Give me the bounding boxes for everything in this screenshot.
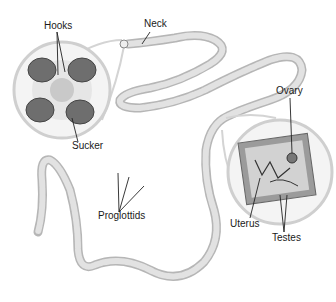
sucker-top-left: [28, 58, 56, 82]
tapeworm-illustration: [0, 0, 336, 302]
label-ovary: Ovary: [276, 86, 303, 96]
sucker-bottom-left: [26, 98, 54, 122]
label-sucker: Sucker: [72, 141, 103, 151]
scolex: [120, 40, 128, 48]
label-testes: Testes: [272, 233, 301, 243]
label-hooks: Hooks: [44, 21, 72, 31]
label-proglottids: Proglottids: [98, 211, 145, 221]
sucker-bottom-right: [66, 100, 94, 124]
label-neck: Neck: [144, 19, 167, 29]
label-uterus: Uterus: [230, 219, 259, 229]
ovary: [287, 153, 297, 163]
sucker-top-right: [68, 58, 96, 82]
tapeworm-diagram: Hooks Neck Sucker Ovary Proglottids Uter…: [0, 0, 336, 302]
proglottid-inset: [228, 120, 332, 224]
